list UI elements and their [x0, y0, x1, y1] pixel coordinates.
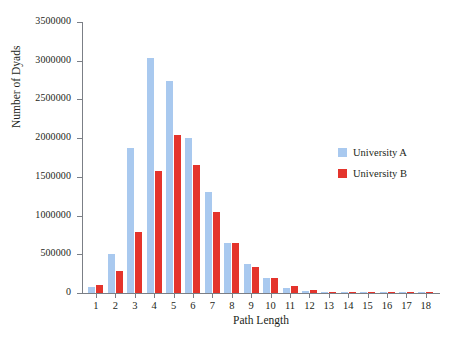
x-axis-tick-label: 7: [210, 300, 215, 311]
x-axis-tick-label: 2: [113, 300, 118, 311]
legend-item[interactable]: University A: [338, 144, 407, 161]
bar: [185, 138, 192, 293]
y-axis-title: Number of Dyads: [10, 8, 22, 128]
x-axis-tick: [290, 293, 291, 298]
y-axis-tick-label: 2500000: [35, 92, 71, 103]
bar: [399, 292, 406, 293]
x-axis-tick-label: 17: [401, 300, 412, 311]
bar: [263, 278, 270, 293]
bar: [116, 271, 123, 293]
x-axis-tick: [135, 293, 136, 298]
bar: [232, 243, 239, 293]
chart-legend: University AUniversity B: [338, 144, 407, 186]
bar: [252, 267, 259, 293]
bar: [224, 243, 231, 293]
y-axis-tick-label: 3500000: [35, 15, 71, 26]
bar: [127, 148, 134, 293]
legend-item-label: University B: [353, 168, 407, 179]
y-axis-tick-label: 1500000: [35, 170, 71, 181]
bar: [349, 292, 356, 293]
x-axis-tick-label: 15: [362, 300, 373, 311]
x-axis-tick-label: 6: [190, 300, 195, 311]
x-axis-tick-label: 10: [265, 300, 276, 311]
x-axis-tick-label: 5: [171, 300, 176, 311]
y-axis-tick: 3500000: [77, 22, 82, 23]
bar: [310, 290, 317, 293]
y-axis-tick: 0: [77, 293, 82, 294]
bar: [205, 192, 212, 293]
x-axis-title: Path Length: [82, 314, 440, 326]
bar: [244, 264, 251, 293]
legend-item-label: University A: [353, 147, 407, 158]
bar: [135, 232, 142, 293]
x-axis-tick: [271, 293, 272, 298]
x-axis-tick-label: 4: [152, 300, 157, 311]
y-axis-tick: 2000000: [77, 138, 82, 139]
legend-item[interactable]: University B: [338, 165, 407, 182]
x-axis-tick-label: 3: [132, 300, 137, 311]
y-axis-tick-label: 1000000: [35, 209, 71, 220]
x-axis-tick-label: 11: [285, 300, 295, 311]
chart-figure: 0500000100000015000002000000250000030000…: [0, 0, 465, 340]
x-axis-tick: [251, 293, 252, 298]
x-axis-tick: [96, 293, 97, 298]
x-axis-tick: [193, 293, 194, 298]
y-axis-tick: 3000000: [77, 61, 82, 62]
x-axis-tick-label: 12: [304, 300, 315, 311]
x-axis-tick-label: 18: [421, 300, 432, 311]
x-axis-tick: [368, 293, 369, 298]
y-axis-tick: 1500000: [77, 177, 82, 178]
x-axis-tick-label: 16: [382, 300, 393, 311]
bar: [108, 254, 115, 293]
y-axis-tick-label: 500000: [40, 247, 71, 258]
bar: [193, 165, 200, 293]
bar: [407, 292, 414, 293]
bar: [96, 285, 103, 293]
y-axis-tick: 1000000: [77, 216, 82, 217]
bar: [329, 292, 336, 293]
x-axis-tick-label: 14: [343, 300, 354, 311]
x-axis-tick-label: 9: [249, 300, 254, 311]
x-axis-tick: [174, 293, 175, 298]
bar: [291, 286, 298, 293]
y-axis-tick-label: 0: [66, 286, 71, 297]
bar: [380, 292, 387, 293]
x-axis-tick: [115, 293, 116, 298]
bar: [166, 81, 173, 293]
x-axis-tick: [329, 293, 330, 298]
x-axis-tick: [406, 293, 407, 298]
bar: [174, 135, 181, 293]
x-axis-tick: [426, 293, 427, 298]
y-axis-tick: 2500000: [77, 99, 82, 100]
bar: [155, 171, 162, 293]
y-axis-tick: 500000: [77, 254, 82, 255]
y-axis-tick-label: 3000000: [35, 54, 71, 65]
bar: [213, 212, 220, 293]
x-axis-tick: [232, 293, 233, 298]
x-axis-tick-label: 8: [229, 300, 234, 311]
bar: [341, 292, 348, 293]
bar: [271, 278, 278, 293]
bar: [302, 291, 309, 293]
bar: [88, 287, 95, 293]
bar: [368, 292, 375, 293]
bar: [388, 292, 395, 293]
legend-swatch-icon: [338, 169, 347, 178]
bar: [147, 58, 154, 293]
bar: [418, 292, 425, 293]
bar: [283, 288, 290, 293]
x-axis-tick: [387, 293, 388, 298]
x-axis-tick: [154, 293, 155, 298]
y-axis-tick-label: 2000000: [35, 131, 71, 142]
x-axis-tick-label: 13: [324, 300, 335, 311]
legend-swatch-icon: [338, 148, 347, 157]
x-axis-tick: [212, 293, 213, 298]
bar: [321, 292, 328, 293]
x-axis-tick: [309, 293, 310, 298]
bar: [426, 292, 433, 293]
x-axis-tick: [348, 293, 349, 298]
bar: [360, 292, 367, 293]
x-axis-tick-label: 1: [93, 300, 98, 311]
